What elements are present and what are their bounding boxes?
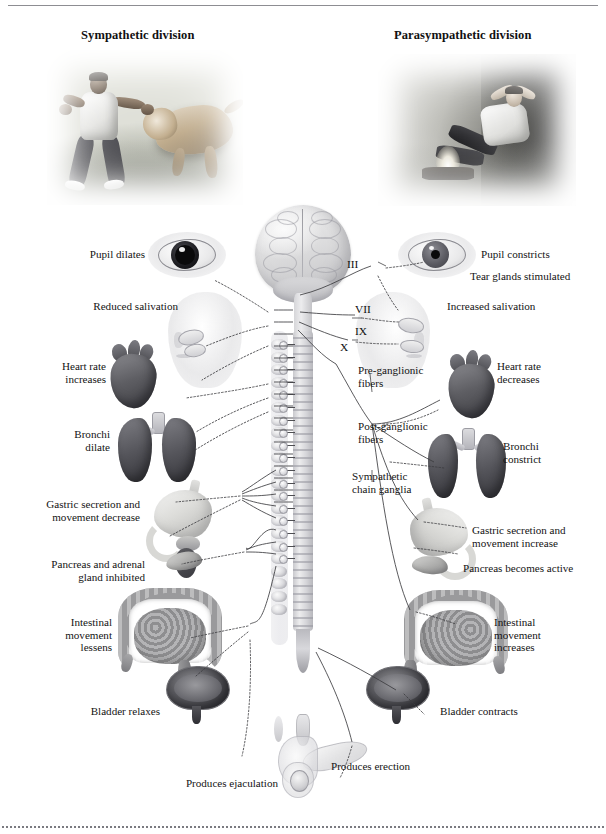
root-ganglion [279, 505, 288, 514]
right-bladder-contracted [366, 666, 428, 722]
sympathetic-division-title: Sympathetic division [81, 28, 194, 43]
conus-medullaris [296, 629, 310, 673]
eye-glint [429, 246, 434, 250]
bladder-body [366, 666, 430, 710]
urethra [392, 706, 401, 724]
label-pupil-constricts: Pupil constricts [481, 248, 550, 261]
cranial-nerve-iii: III [347, 258, 358, 270]
root-ganglion [279, 404, 288, 413]
label-increased-salivation: Increased salivation [447, 300, 535, 313]
label-bladder-contracts: Bladder contracts [440, 705, 518, 718]
root-ganglion [279, 543, 288, 552]
cord-segment [293, 561, 313, 563]
lung-left [428, 434, 458, 498]
cord-segment [293, 593, 313, 595]
seminal-duct [274, 716, 283, 742]
label-intestinal-lessens: Intestinal movement lessens [0, 616, 112, 654]
cord-segment [293, 345, 313, 347]
cord-segment [293, 473, 313, 475]
cord-segment [293, 601, 313, 603]
label-pancreas-adrenal-inhibited: Pancreas and adrenal gland inhibited [0, 558, 145, 583]
left-lungs-dilated [118, 412, 198, 484]
cord-segment [293, 537, 313, 539]
left-bladder-relaxed [166, 666, 228, 722]
left-heart [108, 338, 160, 410]
label-tear-glands-stimulated: Tear glands stimulated [470, 270, 570, 283]
label-pupil-dilates: Pupil dilates [0, 248, 145, 261]
lung-right [162, 418, 196, 482]
cord-segment [293, 369, 313, 371]
cord-segment [293, 585, 313, 587]
cord-segment [293, 497, 313, 499]
cord-segment [293, 425, 313, 427]
cord-segment [293, 377, 313, 379]
chain-ganglion [271, 604, 287, 615]
small-intestine [420, 610, 492, 666]
cord-segment [293, 505, 313, 507]
eye-glint [179, 247, 185, 252]
small-intestine [134, 608, 206, 664]
cord-segment [293, 433, 313, 435]
mouth [406, 354, 422, 358]
label-bronchi-constrict: Bronchi constrict [503, 440, 541, 465]
left-intestines [118, 588, 222, 674]
testis [290, 770, 309, 792]
label-heart-rate-increases: Heart rate increases [0, 360, 106, 385]
label-bladder-relaxes: Bladder relaxes [0, 705, 160, 718]
bladder-lumen [174, 674, 222, 702]
bottom-rule [2, 826, 604, 828]
root-ganglion [279, 467, 288, 476]
cord-segment [293, 465, 313, 467]
left-eye-dilated [148, 232, 226, 278]
lung-left [118, 418, 152, 482]
cord-segment [293, 385, 313, 387]
brainstem [294, 293, 312, 335]
cranial-nerve-x: X [340, 341, 348, 353]
label-pancreas-active: Pancreas becomes active [463, 562, 573, 575]
cranial-nerve-ix: IX [355, 325, 367, 337]
cord-segment [293, 393, 313, 395]
sympathetic-chain-ganglia-label: Sympathetic chain ganglia [352, 470, 411, 495]
heart-body [107, 352, 158, 411]
bladder-lumen [374, 674, 422, 702]
cord-segment [293, 545, 313, 547]
root-ganglion [279, 379, 288, 388]
pupil [431, 250, 440, 259]
root-ganglion [279, 354, 288, 363]
figure-page: Sympathetic division Parasympathetic div… [0, 0, 606, 834]
cord-segment [293, 441, 313, 443]
root-ganglion [279, 442, 288, 451]
root-ganglion [279, 480, 288, 489]
pupil [175, 245, 195, 265]
cord-segment [293, 513, 313, 515]
cord-segment [293, 449, 313, 451]
right-intestines [404, 590, 508, 676]
cranial-nerve-vii: VII [355, 303, 371, 315]
cord-segment [293, 529, 313, 531]
label-bronchi-dilate: Bronchi dilate [0, 428, 110, 453]
root-ganglion [279, 530, 288, 539]
cord-segment [293, 401, 313, 403]
parasympathetic-division-title: Parasympathetic division [394, 28, 531, 43]
cord-segment [293, 353, 313, 355]
cord-segment [293, 625, 313, 627]
cord-segment [293, 481, 313, 483]
top-rule [8, 5, 598, 6]
label-heart-rate-decreases: Heart rate decreases [497, 360, 541, 385]
chain-ganglion [271, 591, 287, 602]
label-gastric-increase: Gastric secretion and movement increase [472, 524, 566, 549]
cord-segment [293, 337, 313, 339]
photo-vignette [47, 50, 243, 205]
cord-segment [293, 417, 313, 419]
cord-segment [293, 489, 313, 491]
cord-segment [293, 409, 313, 411]
label-intestinal-increases: Intestinal movement increases [494, 616, 541, 654]
root-ganglion [279, 341, 288, 350]
right-lungs-constricted [428, 428, 508, 500]
pre-ganglionic-fibers-label: Pre-ganglionic fibers [358, 364, 423, 389]
bladder-body [166, 666, 230, 710]
lung-right [476, 434, 506, 498]
photo-vignette [378, 54, 576, 206]
cord-segment [293, 609, 313, 611]
cord-segment [293, 361, 313, 363]
